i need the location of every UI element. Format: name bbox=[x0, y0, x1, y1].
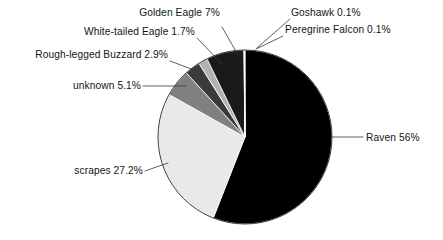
pie-label-raven: Raven 56% bbox=[366, 132, 420, 143]
pie-label-white-tailed-eagle: White-tailed Eagle 1.7% bbox=[84, 26, 195, 37]
pie-slice-peregrine-falcon[interactable] bbox=[244, 50, 245, 137]
pie-label-scrapes: scrapes 27.2% bbox=[74, 165, 143, 176]
pie-chart-figure: Golden Eagle 7% Goshawk 0.1% Peregrine F… bbox=[0, 0, 443, 240]
pie-slices bbox=[158, 50, 332, 224]
pie-label-rough-legged-buzzard: Rough-legged Buzzard 2.9% bbox=[35, 49, 168, 60]
pie-label-golden-eagle: Golden Eagle 7% bbox=[139, 7, 220, 18]
pie-label-goshawk: Goshawk 0.1% bbox=[291, 7, 361, 18]
leader-line-golden-eagle bbox=[222, 27, 238, 55]
pie-label-unknown: unknown 5.1% bbox=[73, 80, 141, 91]
leader-line-peregrine-falcon bbox=[256, 36, 283, 49]
pie-label-peregrine-falcon: Peregrine Falcon 0.1% bbox=[285, 24, 391, 35]
